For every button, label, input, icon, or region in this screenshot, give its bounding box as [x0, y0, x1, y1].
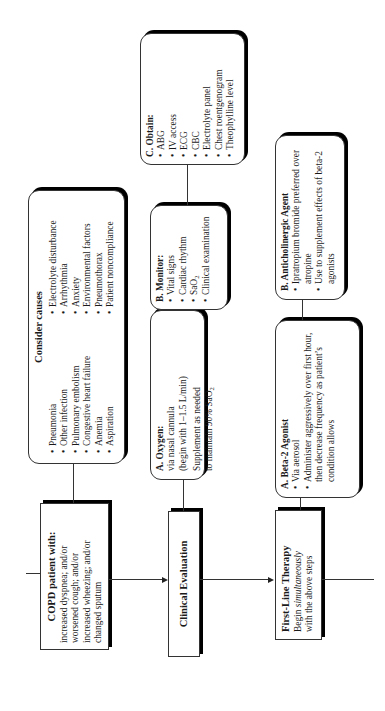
copd-title: COPD patient with:	[46, 510, 59, 643]
cause-item: Anxiety	[71, 220, 82, 314]
copd-line-2: worsened cough; and/or	[70, 510, 81, 643]
connector-eval-therapy	[200, 579, 270, 580]
causes-list-right: Electrolyte disturbance Arrhythmia Anxie…	[48, 220, 117, 314]
obtain-title: C. Obtain:	[145, 41, 156, 157]
anticholinergic-item: Use to supplement effects of beta-2 agon…	[314, 144, 337, 291]
cause-item: Arrhythmia	[59, 220, 70, 314]
obtain-list: ABG IV access ECG CBC Electrolyte panel …	[156, 41, 236, 157]
monitor-title: B. Monitor:	[155, 213, 166, 302]
obtain-item: Electrolyte panel	[202, 41, 213, 157]
cause-item: Pneumothorax	[94, 220, 105, 314]
copd-line-1: increased dyspnea; and/or	[59, 510, 70, 643]
monitor-item: Vital signs	[166, 213, 177, 302]
therapy-sub-1: Begin simultaneously	[293, 518, 304, 632]
therapy-title: First-Line Therapy	[280, 518, 293, 632]
obtain-item: ECG	[179, 41, 190, 157]
obtain-item: IV access	[168, 41, 179, 157]
monitor-box: B. Monitor: Vital signs Cardiac rhythm S…	[150, 205, 228, 310]
connector-eval-oxygen	[183, 480, 184, 511]
connector-beta-anticholinergic	[302, 300, 303, 320]
cause-item: Pulmonary embolism	[71, 328, 82, 453]
obtain-box: C. Obtain: ABG IV access ECG CBC Electro…	[140, 33, 245, 165]
connector-continue	[322, 579, 374, 580]
copd-line-4: changed sputum	[93, 510, 104, 643]
obtain-item: CBC	[191, 41, 202, 157]
connector-copd-to-causes	[73, 464, 74, 503]
oxygen-title: A. Oxygen:	[155, 319, 166, 471]
oxygen-line-1: via nasal cannula	[166, 319, 177, 471]
oxygen-note-2: to maintain 90% SaO2	[204, 319, 215, 471]
arrow-into-therapy	[268, 577, 274, 583]
oxygen-line-2: (begin with 1–1.5 L/min)	[178, 319, 189, 471]
connector-therapy-beta	[300, 498, 301, 510]
monitor-list: Vital signs Cardiac rhythm SaO2 Clinical…	[166, 213, 212, 302]
clinical-evaluation-box: Clinical Evaluation	[168, 511, 200, 657]
beta2-item: Via aerosol	[291, 329, 302, 489]
cause-item: Aspiration	[105, 328, 116, 453]
beta2-item: Administer aggressively over first hour,…	[303, 329, 337, 489]
therapy-sub-2: with the above steps	[304, 518, 315, 632]
monitor-item: Cardiac rhythm	[178, 213, 189, 302]
cause-item: Anemia	[94, 328, 105, 453]
cause-item: Pneumonia	[48, 328, 59, 453]
causes-list-left: Pneumonia Other infection Pulmonary embo…	[48, 328, 117, 453]
oxygen-note-1: Supplement as needed	[192, 319, 203, 471]
consider-causes-box: Consider causes Pneumonia Other infectio…	[28, 190, 125, 464]
connector-monitor-obtain	[187, 165, 188, 205]
anticholinergic-list: Ipratropium bromide preferred over atrop…	[291, 144, 337, 291]
obtain-item: Chest roentgenogram	[214, 41, 225, 157]
connector-copd-eval	[109, 579, 164, 580]
clinical-evaluation-title: Clinical Evaluation	[178, 541, 191, 628]
flowchart-canvas: COPD patient with: increased dyspnea; an…	[0, 0, 385, 711]
copd-line-3: increased wheezing; and/or	[82, 510, 93, 643]
first-line-therapy-box: First-Line Therapy Begin simultaneously …	[275, 510, 322, 640]
obtain-item: Theophylline level	[225, 41, 236, 157]
beta2-agonist-box: A. Beta-2 Agonist Via aerosol Administer…	[275, 320, 360, 498]
monitor-item: SaO2	[189, 213, 200, 302]
connector-copd-causes	[26, 573, 40, 574]
cause-item: Congestive heart failure	[82, 328, 93, 453]
anticholinergic-title: B. Anticholinergic Agent	[280, 144, 291, 291]
causes-title: Consider causes	[33, 201, 46, 453]
copd-patient-box: COPD patient with: increased dyspnea; an…	[40, 503, 109, 650]
cause-item: Electrolyte disturbance	[48, 220, 59, 314]
monitor-item: Clinical examination	[201, 213, 212, 302]
oxygen-box: A. Oxygen: via nasal cannula (begin with…	[150, 310, 205, 480]
anticholinergic-agent-box: B. Anticholinergic Agent Ipratropium bro…	[275, 135, 345, 300]
anticholinergic-item: Ipratropium bromide preferred over atrop…	[291, 144, 314, 291]
beta2-title: A. Beta-2 Agonist	[280, 329, 291, 489]
obtain-item: ABG	[156, 41, 167, 157]
cause-item: Patient noncompliance	[105, 220, 116, 314]
beta2-list: Via aerosol Administer aggressively over…	[291, 329, 337, 489]
arrow-into-evaluation	[162, 577, 168, 583]
cause-item: Other infection	[59, 328, 70, 453]
cause-item: Environmental factors	[82, 220, 93, 314]
